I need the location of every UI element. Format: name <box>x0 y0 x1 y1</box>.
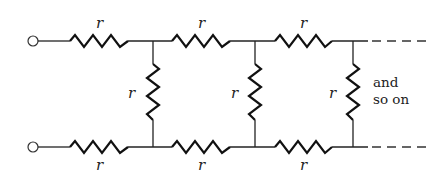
bottom-input-terminal <box>28 142 38 152</box>
top-resistor-2-label: r <box>198 14 206 32</box>
shunt-resistor-3 <box>347 41 359 147</box>
continuation-note-line2: so on <box>373 91 409 107</box>
ladder-circuit: r r r r r r r r r and so on <box>0 0 441 176</box>
bottom-resistor-2-label: r <box>198 156 206 174</box>
bottom-resistor-1 <box>70 141 128 153</box>
shunt-resistor-2 <box>249 41 261 147</box>
continuation-note-line1: and <box>373 74 399 90</box>
bottom-resistor-3-label: r <box>300 156 308 174</box>
bottom-resistor-3 <box>275 141 332 153</box>
bottom-resistor-2 <box>172 141 230 153</box>
top-resistor-3-label: r <box>300 14 308 32</box>
shunt-resistor-3-label: r <box>329 84 337 102</box>
shunt-resistor-1-label: r <box>128 84 136 102</box>
top-input-terminal <box>28 36 38 46</box>
shunt-resistor-1 <box>147 41 159 147</box>
top-resistor-1 <box>70 35 128 47</box>
top-resistor-1-label: r <box>96 14 104 32</box>
bottom-resistor-1-label: r <box>96 156 104 174</box>
top-resistor-3 <box>275 35 332 47</box>
shunt-resistor-2-label: r <box>231 84 239 102</box>
top-resistor-2 <box>172 35 230 47</box>
